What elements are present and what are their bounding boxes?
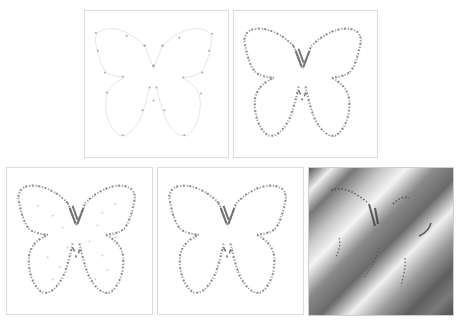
panel-stippled-noisy bbox=[6, 167, 153, 315]
butterfly-on-texture bbox=[309, 168, 453, 315]
butterfly-stippled-clean bbox=[158, 168, 303, 314]
striped-gradient-texture bbox=[309, 168, 453, 315]
panel-stippled-contour bbox=[233, 10, 378, 158]
butterfly-outline-sparse bbox=[85, 11, 228, 157]
panel-stippled-clean bbox=[157, 167, 304, 315]
butterfly-stippled bbox=[234, 11, 377, 157]
control-points bbox=[95, 32, 213, 136]
panel-textured-background bbox=[308, 167, 454, 316]
butterfly-stippled-noisy bbox=[7, 168, 152, 314]
panel-control-points bbox=[84, 10, 229, 158]
